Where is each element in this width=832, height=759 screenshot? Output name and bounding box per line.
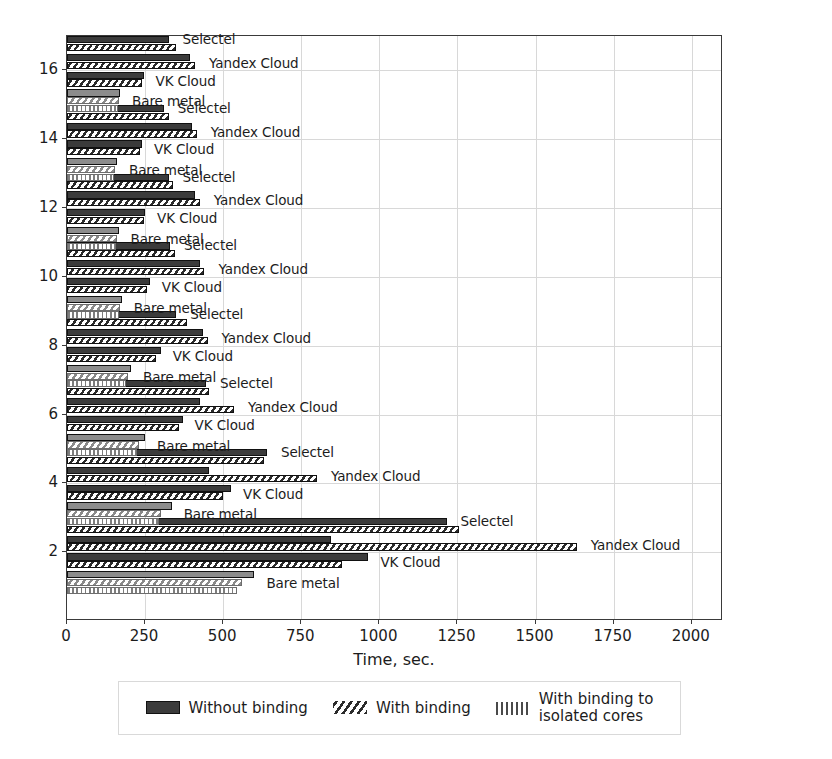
bar-group-label: Yandex Cloud: [248, 401, 338, 414]
bar-vk-cloud-hatch: [67, 286, 147, 293]
bar-yandex-cloud-solid: [67, 329, 203, 336]
bar-group-label: VK Cloud: [195, 419, 255, 432]
bar-group-label: Bare metal: [266, 577, 339, 590]
bar-vk-cloud-solid: [67, 347, 161, 354]
bar-group-label: VK Cloud: [173, 350, 233, 363]
x-tick-label: 1000: [359, 627, 397, 645]
y-tick-label: 4: [18, 473, 58, 491]
bar-vk-cloud-solid: [67, 278, 150, 285]
bar-group-label: Bare metal: [131, 233, 204, 246]
bar-bare-metal-hatch: [67, 166, 115, 173]
x-tick-label: 250: [130, 627, 159, 645]
x-tick-label: 750: [286, 627, 315, 645]
bar-selectel-hatch: [67, 526, 459, 533]
bar-group-label: Bare metal: [143, 371, 216, 384]
bar-bare-metal-hatch: [67, 97, 119, 104]
y-tick-mark: [62, 551, 66, 552]
bar-bare-metal-solid: [67, 296, 122, 303]
y-tick-label: 14: [18, 129, 58, 147]
bar-yandex-cloud-solid: [67, 191, 195, 198]
bar-yandex-cloud-hatch: [67, 337, 208, 344]
bar-group-label: VK Cloud: [154, 143, 214, 156]
legend-entry: Without binding: [146, 700, 308, 717]
x-tick-label: 0: [61, 627, 71, 645]
bar-group-label: Yandex Cloud: [222, 332, 312, 345]
bar-group-label: Yandex Cloud: [214, 194, 304, 207]
bar-yandex-cloud-hatch: [67, 475, 317, 482]
bar-vk-cloud-hatch: [67, 561, 342, 568]
bar-selectel-hatch: [67, 181, 173, 188]
x-tick-mark: [144, 620, 145, 624]
bar-group-label: VK Cloud: [156, 75, 216, 88]
y-tick-label: 2: [18, 542, 58, 560]
y-tick-label: 10: [18, 267, 58, 285]
bar-bare-metal-vhatch: [67, 311, 119, 318]
y-tick-label: 12: [18, 198, 58, 216]
bar-bare-metal-vhatch: [67, 105, 118, 112]
bar-group-label: Yandex Cloud: [591, 539, 681, 552]
x-tick-mark: [222, 620, 223, 624]
bar-yandex-cloud-hatch: [67, 199, 200, 206]
bar-selectel-hatch: [67, 113, 169, 120]
x-tick-mark: [691, 620, 692, 624]
legend-label: With binding to isolated cores: [539, 691, 654, 725]
legend-swatch-vertical-hatch-icon: [496, 702, 530, 715]
x-tick-mark: [456, 620, 457, 624]
y-tick-mark: [62, 276, 66, 277]
bar-bare-metal-solid: [67, 158, 117, 165]
x-axis-label: Time, sec.: [66, 650, 722, 669]
bar-yandex-cloud-solid: [67, 123, 192, 130]
bar-group-label: Yandex Cloud: [209, 57, 299, 70]
y-tick-mark: [62, 482, 66, 483]
bar-vk-cloud-solid: [67, 416, 183, 423]
plot-area: SelectelYandex CloudVK CloudBare metalSe…: [66, 35, 722, 620]
y-tick-label: 8: [18, 336, 58, 354]
bar-vk-cloud-hatch: [67, 148, 140, 155]
bar-group-label: VK Cloud: [380, 556, 440, 569]
bar-bare-metal-vhatch: [67, 174, 114, 181]
legend-entry: With binding: [333, 700, 471, 717]
y-tick-mark: [62, 138, 66, 139]
x-tick-mark: [535, 620, 536, 624]
bar-group-label: Yandex Cloud: [211, 126, 301, 139]
bar-bare-metal-solid: [67, 89, 120, 96]
y-tick-mark: [62, 414, 66, 415]
bar-group-label: Selectel: [220, 377, 273, 390]
bar-yandex-cloud-hatch: [67, 130, 197, 137]
bar-yandex-cloud-solid: [67, 260, 200, 267]
bar-yandex-cloud-solid: [67, 467, 209, 474]
bar-bare-metal-vhatch: [67, 518, 159, 525]
x-tick-label: 1500: [515, 627, 553, 645]
bar-bare-metal-hatch: [67, 441, 139, 448]
bar-vk-cloud-hatch: [67, 79, 142, 86]
bar-vk-cloud-solid: [67, 553, 368, 560]
bar-bare-metal-vhatch: [67, 380, 126, 387]
bar-bare-metal-solid: [67, 365, 131, 372]
bar-group-label: Selectel: [281, 446, 334, 459]
bar-vk-cloud-solid: [67, 209, 145, 216]
bar-bare-metal-solid: [67, 434, 145, 441]
x-tick-label: 500: [208, 627, 237, 645]
bar-group-label: Bare metal: [129, 164, 202, 177]
bar-yandex-cloud-hatch: [67, 543, 577, 550]
bar-vk-cloud-hatch: [67, 492, 223, 499]
bar-bare-metal-hatch: [67, 510, 161, 517]
bar-yandex-cloud-hatch: [67, 268, 204, 275]
bar-group-label: Bare metal: [132, 95, 205, 108]
bar-group-label: Bare metal: [184, 508, 257, 521]
bar-yandex-cloud-solid: [67, 54, 190, 61]
bar-selectel-solid: [67, 36, 169, 43]
bar-group-label: VK Cloud: [243, 488, 303, 501]
bar-bare-metal-solid: [67, 502, 172, 509]
bar-selectel-hatch: [67, 388, 209, 395]
bar-bare-metal-hatch: [67, 304, 120, 311]
y-tick-mark: [62, 69, 66, 70]
bar-vk-cloud-solid: [67, 72, 144, 79]
bar-group-label: Selectel: [183, 33, 236, 46]
bar-bare-metal-solid: [67, 571, 254, 578]
x-tick-mark: [300, 620, 301, 624]
bar-vk-cloud-solid: [67, 485, 231, 492]
bar-yandex-cloud-solid: [67, 536, 331, 543]
y-tick-mark: [62, 345, 66, 346]
y-tick-mark: [62, 207, 66, 208]
